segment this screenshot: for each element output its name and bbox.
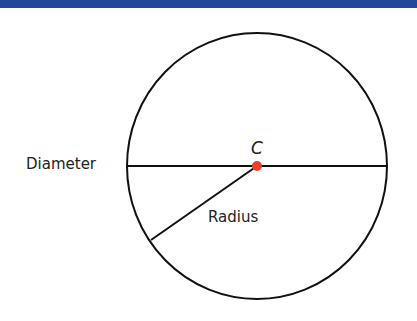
radius-label: Radius [208,208,258,226]
center-label: C [251,138,263,158]
diameter-label: Diameter [26,155,96,173]
radius-line [151,166,257,240]
center-point [252,161,262,171]
